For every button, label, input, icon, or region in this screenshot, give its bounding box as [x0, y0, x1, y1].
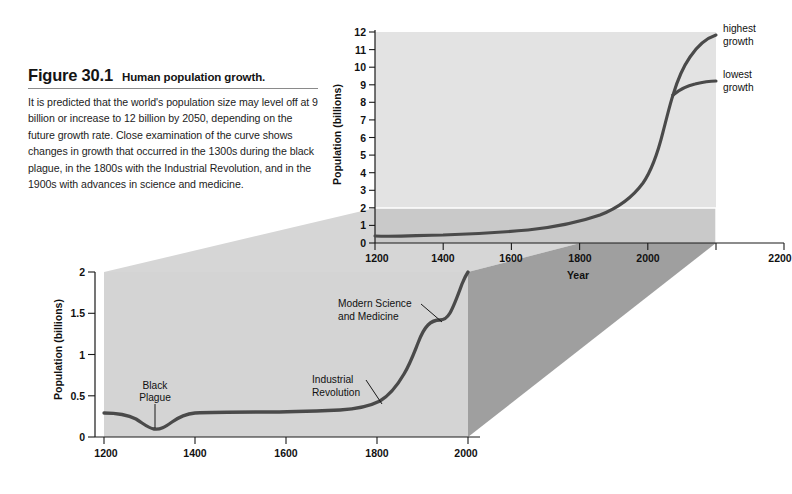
- main-ytick-6: 6: [360, 132, 366, 144]
- main-xtick-1600: 1600: [499, 252, 523, 264]
- main-y-axis-title: Population (billions): [331, 84, 343, 185]
- main-xtick-1200: 1200: [365, 252, 389, 264]
- main-ytick-11: 11: [355, 44, 366, 56]
- main-xtick-1400: 1400: [431, 252, 455, 264]
- inset-y-tick-labels: 2 1.5 1 0.5 0: [70, 266, 85, 443]
- main-ytick-5: 5: [360, 149, 366, 161]
- inset-x-ticks: [104, 437, 468, 444]
- lowest-growth-label-line2: growth: [723, 82, 754, 93]
- main-ytick-9: 9: [360, 79, 366, 91]
- black-plague-label-line1: Black: [143, 380, 169, 391]
- main-x-axis-title: Year: [567, 269, 589, 281]
- inset-chart: 2 1.5 1 0.5 0 Population (billions) 1200…: [52, 266, 480, 459]
- inset-ytick-0: 0: [79, 431, 85, 443]
- industrial-revolution-label-line1: Industrial: [312, 374, 353, 385]
- series-label-highest-growth: highest growth: [723, 23, 756, 47]
- inset-xtick-1600: 1600: [274, 447, 298, 459]
- inset-y-ticks: [88, 272, 95, 437]
- industrial-revolution-label-line2: Revolution: [312, 387, 360, 398]
- main-chart: 12 11 10 9 8 7 6 5 4 3 2 1 0 Population …: [331, 23, 792, 281]
- main-ytick-8: 8: [360, 96, 366, 108]
- main-ytick-12: 12: [354, 26, 366, 38]
- main-xtick-2000: 2000: [636, 252, 660, 264]
- inset-ytick-1p5: 1.5: [70, 307, 85, 319]
- main-ytick-3: 3: [360, 184, 366, 196]
- inset-x-tick-labels: 1200 1400 1600 1800 2000: [94, 447, 478, 459]
- inset-y-axis-title: Population (billions): [52, 299, 64, 400]
- main-xtick-2200: 2200: [768, 252, 792, 264]
- main-ytick-2: 2: [360, 202, 366, 214]
- lowest-growth-label-line1: lowest: [723, 69, 752, 80]
- inset-ytick-2: 2: [79, 266, 85, 278]
- highest-growth-label-line1: highest: [723, 23, 756, 34]
- modern-science-label-line1: Modern Science: [338, 298, 412, 309]
- main-ytick-7: 7: [360, 114, 366, 126]
- main-ytick-1: 1: [360, 219, 366, 231]
- main-ytick-0: 0: [360, 237, 366, 249]
- highest-growth-label-line2: growth: [723, 36, 754, 47]
- main-ytick-10: 10: [354, 61, 366, 73]
- main-xtick-1800: 1800: [568, 252, 592, 264]
- inset-ytick-1: 1: [79, 349, 85, 361]
- main-highlight-region: [375, 208, 716, 243]
- inset-xtick-1200: 1200: [94, 447, 118, 459]
- figure-illustration: 12 11 10 9 8 7 6 5 4 3 2 1 0 Population …: [0, 0, 792, 494]
- inset-ytick-0p5: 0.5: [70, 390, 85, 402]
- series-label-lowest-growth: lowest growth: [723, 69, 754, 93]
- inset-xtick-1800: 1800: [365, 447, 389, 459]
- inset-xtick-1400: 1400: [183, 447, 207, 459]
- black-plague-label-line2: Plague: [139, 392, 171, 403]
- main-ytick-4: 4: [360, 167, 366, 179]
- inset-xtick-2000: 2000: [454, 447, 478, 459]
- modern-science-label-line2: and Medicine: [338, 311, 399, 322]
